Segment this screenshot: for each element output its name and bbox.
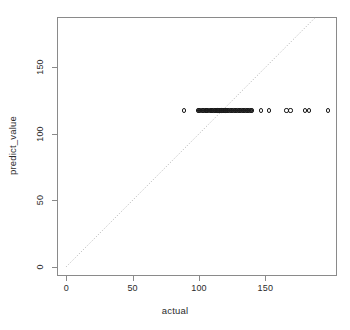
x-axis-tick xyxy=(199,276,200,281)
x-axis-tick-label: 150 xyxy=(250,283,280,293)
y-axis-label: predict_value xyxy=(7,86,18,206)
identity-reference-line-icon xyxy=(57,17,337,276)
y-axis-tick xyxy=(52,67,57,68)
reference-line-stroke xyxy=(66,17,315,267)
y-axis-tick xyxy=(52,134,57,135)
scatter-plot-figure: 050100150 050100150 actual predict_value xyxy=(0,0,350,330)
x-axis-tick-label: 0 xyxy=(51,283,81,293)
data-point xyxy=(267,108,271,112)
y-axis-tick-label: 0 xyxy=(34,257,46,277)
x-axis-tick xyxy=(133,276,134,281)
plot-area xyxy=(57,17,337,276)
x-axis-tick-label: 100 xyxy=(184,283,214,293)
data-point xyxy=(307,108,311,112)
y-axis-tick xyxy=(52,267,57,268)
data-point xyxy=(288,108,292,112)
data-point xyxy=(259,108,263,112)
x-axis-label: actual xyxy=(0,305,350,316)
data-point xyxy=(182,108,186,112)
x-axis-tick xyxy=(265,276,266,281)
y-axis-tick xyxy=(52,200,57,201)
y-axis-tick-label: 150 xyxy=(34,57,46,77)
y-axis-tick-label: 100 xyxy=(34,124,46,144)
x-axis-tick-label: 50 xyxy=(118,283,148,293)
x-axis-tick xyxy=(66,276,67,281)
data-point xyxy=(326,108,330,112)
data-point xyxy=(250,108,254,112)
y-axis-tick-label: 50 xyxy=(34,190,46,210)
